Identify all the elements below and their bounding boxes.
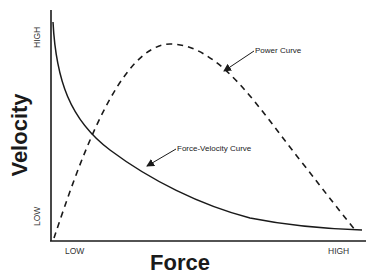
y-axis-title: Velocity <box>7 93 32 177</box>
power-curve-label: Power Curve <box>255 46 302 55</box>
y-tick-low: LOW <box>32 207 42 226</box>
x-tick-low: LOW <box>65 246 84 256</box>
force-velocity-power-diagram: Power Curve Force-Velocity Curve HIGH LO… <box>0 0 375 276</box>
x-axis-title: Force <box>150 250 210 275</box>
power-curve-arrow <box>224 51 254 71</box>
force-velocity-arrow <box>147 149 176 166</box>
y-tick-high: HIGH <box>32 27 42 48</box>
force-velocity-curve-label: Force-Velocity Curve <box>177 144 252 153</box>
x-tick-high: HIGH <box>328 246 349 256</box>
force-velocity-curve <box>53 22 362 230</box>
